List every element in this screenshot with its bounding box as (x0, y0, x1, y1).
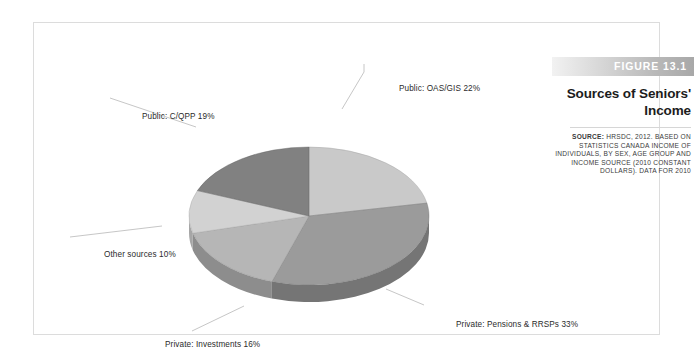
figure-number-banner: FIGURE 13.1 (552, 57, 694, 76)
source-prefix-label: SOURCE: (572, 133, 604, 140)
pie-label-c-qpp: Public: C/QPP 19% (142, 112, 215, 121)
pie-label-other-sources: Other sources 10% (104, 250, 176, 259)
leader-line-pensions (386, 289, 424, 305)
pie-label-investments: Private: Investments 16% (165, 340, 260, 349)
figure-title: Sources of Seniors' Income (552, 85, 691, 119)
leader-line-investments (192, 306, 244, 331)
leader-line-oas-gis-2 (342, 72, 364, 109)
pie-label-oas-gis: Public: OAS/GIS 22% (399, 84, 480, 93)
figure-border-box: Public: OAS/GIS 22% Public: C/QPP 19% Ot… (33, 22, 660, 335)
figure-number-label: FIGURE 13.1 (614, 60, 687, 72)
leader-line-other (70, 226, 162, 237)
figure-caption-panel: FIGURE 13.1 Sources of Seniors' Income S… (546, 47, 694, 347)
pie-top-face (189, 147, 429, 285)
caption-divider (570, 127, 691, 128)
pie-chart-area: Public: OAS/GIS 22% Public: C/QPP 19% Ot… (68, 46, 538, 353)
figure-source-note: SOURCE: HRSDC, 2012. BASED ON STATISTICS… (549, 133, 691, 176)
